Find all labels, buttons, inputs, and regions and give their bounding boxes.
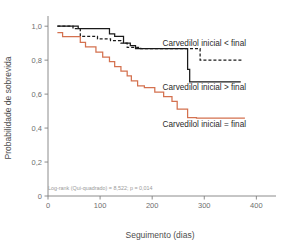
series-label: Carvedilol inicial < final <box>163 39 247 48</box>
series-label: Carvedilol inicial = final <box>163 120 247 129</box>
y-tick-label: 0,6 <box>32 90 42 99</box>
x-tick-label: 300 <box>198 201 211 210</box>
chart-canvas: 00,20,40,60,81,0 0100200300400 Carvedilo… <box>0 0 281 248</box>
x-tick-label: 400 <box>250 201 263 210</box>
y-tick-label: 1,0 <box>32 22 42 31</box>
y-tick-label: 0,8 <box>32 56 42 65</box>
survival-chart: 00,20,40,60,81,0 0100200300400 Carvedilo… <box>0 0 281 248</box>
series-label: Carvedilol inicial > final <box>163 83 247 92</box>
y-tick-label: 0,2 <box>32 158 42 167</box>
x-tick-label: 200 <box>146 201 159 210</box>
log-rank-annotation: Log-rank (Qui-quadrado) = 8,522; p = 0,0… <box>48 185 153 191</box>
x-tick-label: 100 <box>94 201 107 210</box>
x-tick-label: 0 <box>46 201 50 210</box>
x-axis-title: Seguimento (dias) <box>126 230 195 240</box>
y-axis-title: Probabilidade de sobrevida <box>3 56 13 159</box>
y-tick-label: 0 <box>38 192 42 201</box>
y-tick-label: 0,4 <box>32 124 42 133</box>
